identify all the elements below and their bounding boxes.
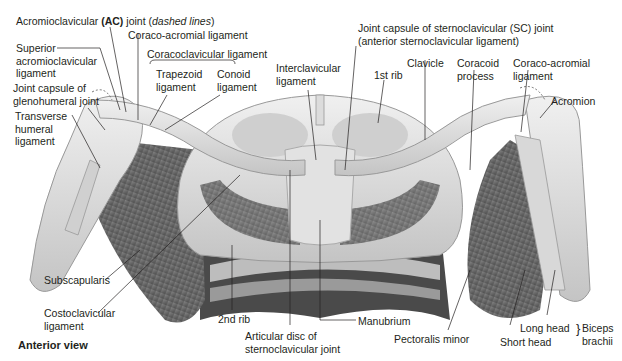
label-clavicle: Clavicle: [407, 57, 444, 70]
view-caption: Anterior view: [18, 339, 88, 351]
label-superior-ac-ligament: Superior acromioclavicular ligament: [16, 42, 97, 80]
label-biceps-brachii: Biceps brachii: [582, 322, 614, 347]
anatomy-figure: Acromioclavicular (AC) joint (dashed lin…: [0, 0, 622, 361]
label-second-rib: 2nd rib: [218, 313, 250, 326]
label-coracoid-process: Coracoid process: [457, 57, 499, 82]
label-subscapularis: Subscapularis: [44, 274, 110, 287]
label-interclavicular-ligament: Interclavicular ligament: [276, 62, 341, 87]
label-coracoclavicular-ligament: Coracoclavicular ligament: [147, 48, 267, 61]
label-first-rib: 1st rib: [374, 69, 403, 82]
label-long-head: Long head: [520, 322, 570, 335]
label-coraco-acromial-ligament-right: Coraco-acromial ligament: [513, 57, 590, 82]
label-coraco-acromial-ligament-left: Coraco-acromial ligament: [128, 29, 248, 42]
vertebra-spine: [316, 95, 324, 125]
label-acromion: Acromion: [551, 95, 595, 108]
label-transverse-humeral-ligament: Transverse humeral ligament: [15, 110, 67, 148]
label-sc-joint-capsule: Joint capsule of sternoclavicular (SC) j…: [358, 22, 554, 47]
label-glenohumeral-joint-capsule: Joint capsule of glenohumeral joint: [13, 82, 99, 107]
label-articular-disc: Articular disc of sternoclavicular joint: [245, 330, 340, 355]
label-trapezoid-ligament: Trapezoid ligament: [156, 68, 202, 93]
label-manubrium: Manubrium: [358, 315, 411, 328]
label-short-head: Short head: [500, 336, 551, 349]
label-ac-joint: Acromioclavicular (AC) joint (dashed lin…: [16, 15, 214, 28]
label-pectoralis-minor: Pectoralis minor: [394, 333, 469, 346]
brace-icon: }: [576, 322, 580, 335]
label-costoclavicular-ligament: Costoclavicular ligament: [44, 307, 115, 332]
label-conoid-ligament: Conoid ligament: [217, 68, 257, 93]
